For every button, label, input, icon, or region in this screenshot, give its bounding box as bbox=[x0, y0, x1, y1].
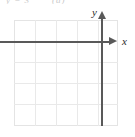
grid-line-vertical bbox=[35, 20, 36, 126]
x-axis-arrow-icon bbox=[109, 37, 117, 45]
y-axis-line bbox=[101, 14, 103, 126]
figure-canvas: y = 3(a) y x bbox=[0, 0, 135, 137]
grid-line-vertical bbox=[98, 20, 99, 126]
x-axis-line bbox=[0, 41, 110, 43]
clipped-header-right: (a) bbox=[52, 0, 66, 4]
clipped-header-text: y = 3(a) bbox=[6, 0, 131, 4]
grid-line-vertical bbox=[56, 20, 57, 126]
clipped-header-left: y = 3 bbox=[6, 0, 30, 4]
plot-area bbox=[14, 20, 118, 126]
grid-line-vertical bbox=[77, 20, 78, 126]
y-axis-label: y bbox=[92, 7, 97, 18]
y-axis-arrow-icon bbox=[98, 11, 106, 19]
x-axis-label: x bbox=[122, 36, 127, 47]
